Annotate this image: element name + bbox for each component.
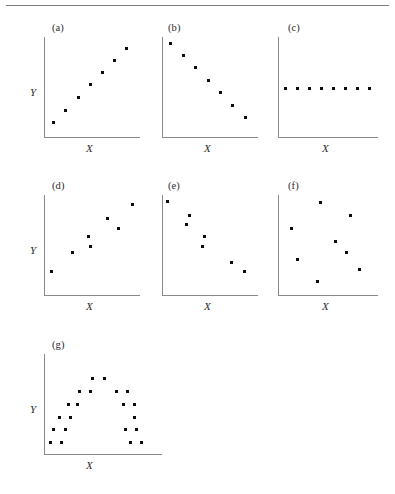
data-point	[64, 109, 67, 112]
axis-label-x-c: X	[322, 142, 329, 154]
data-point	[126, 390, 129, 393]
data-point	[89, 390, 92, 393]
data-point	[135, 428, 138, 431]
data-point	[334, 240, 337, 243]
panel-a: (a) Y X	[30, 20, 145, 165]
plot-area-a	[44, 37, 140, 137]
data-point	[166, 200, 169, 203]
y-axis-e	[162, 195, 163, 295]
panel-label-d: (d)	[52, 180, 65, 191]
data-point	[91, 377, 94, 380]
data-point	[203, 235, 206, 238]
x-axis-d	[44, 295, 140, 296]
data-point	[50, 270, 53, 273]
y-axis-c	[278, 37, 279, 137]
data-point	[124, 428, 127, 431]
plot-area-e	[162, 195, 258, 295]
y-axis-f	[278, 195, 279, 295]
plot-area-b	[162, 37, 258, 137]
data-point	[243, 270, 246, 273]
data-point	[78, 390, 81, 393]
data-point	[89, 83, 92, 86]
plot-area-d	[44, 195, 140, 295]
data-point	[133, 416, 136, 419]
data-point	[69, 416, 72, 419]
panel-label-b: (b)	[168, 22, 181, 33]
data-point	[290, 227, 293, 230]
plot-area-g	[44, 354, 162, 454]
data-point	[356, 87, 359, 90]
data-point	[71, 251, 74, 254]
data-point	[87, 235, 90, 238]
y-axis-a	[44, 37, 45, 137]
data-point	[182, 54, 185, 57]
data-point	[106, 217, 109, 220]
panel-b: (b) X	[148, 20, 263, 165]
panel-label-g: (g)	[52, 339, 65, 350]
data-point	[219, 91, 222, 94]
data-point	[131, 203, 134, 206]
top-rule	[6, 5, 389, 6]
data-point	[60, 441, 63, 444]
data-point	[188, 214, 191, 217]
data-point	[89, 245, 92, 248]
data-point	[230, 261, 233, 264]
data-point	[320, 87, 323, 90]
data-point	[231, 104, 234, 107]
axis-label-x-e: X	[204, 300, 211, 312]
x-axis-a	[44, 137, 140, 138]
y-axis-g	[44, 354, 45, 454]
data-point	[52, 428, 55, 431]
data-point	[115, 390, 118, 393]
data-point	[117, 227, 120, 230]
data-point	[129, 441, 132, 444]
data-point	[101, 71, 104, 74]
plot-area-c	[278, 37, 378, 137]
panel-d: (d) Y X	[30, 178, 145, 323]
data-point	[296, 87, 299, 90]
axis-label-x-a: X	[86, 142, 93, 154]
data-point	[77, 96, 80, 99]
data-point	[284, 87, 287, 90]
data-point	[244, 116, 247, 119]
axis-label-x-f: X	[322, 300, 329, 312]
data-point	[49, 441, 52, 444]
data-point	[58, 416, 61, 419]
axis-label-y-d: Y	[30, 244, 36, 256]
data-point	[308, 87, 311, 90]
axis-label-x-d: X	[86, 300, 93, 312]
axis-label-y-a: Y	[30, 86, 36, 98]
data-point	[207, 79, 210, 82]
panel-label-c: (c)	[288, 22, 300, 33]
x-axis-g	[44, 454, 162, 455]
x-axis-e	[162, 295, 258, 296]
y-axis-b	[162, 37, 163, 137]
data-point	[349, 214, 352, 217]
axis-label-y-g: Y	[30, 403, 36, 415]
data-point	[185, 223, 188, 226]
data-point	[140, 441, 143, 444]
data-point	[125, 47, 128, 50]
panel-e: (e) X	[148, 178, 263, 323]
x-axis-f	[278, 295, 378, 296]
data-point	[368, 87, 371, 90]
data-point	[332, 87, 335, 90]
x-axis-b	[162, 137, 258, 138]
data-point	[169, 42, 172, 45]
panel-label-e: (e)	[168, 180, 180, 191]
plot-area-f	[278, 195, 378, 295]
data-point	[316, 280, 319, 283]
data-point	[52, 121, 55, 124]
data-point	[113, 59, 116, 62]
data-point	[344, 87, 347, 90]
axis-label-x-g: X	[86, 459, 93, 471]
data-point	[64, 428, 67, 431]
data-point	[194, 66, 197, 69]
data-point	[133, 403, 136, 406]
panel-label-f: (f)	[288, 180, 299, 191]
axis-label-x-b: X	[204, 142, 211, 154]
data-point	[296, 258, 299, 261]
panel-g: (g) Y X	[30, 337, 180, 487]
data-point	[76, 403, 79, 406]
panel-c: (c) X	[264, 20, 384, 165]
